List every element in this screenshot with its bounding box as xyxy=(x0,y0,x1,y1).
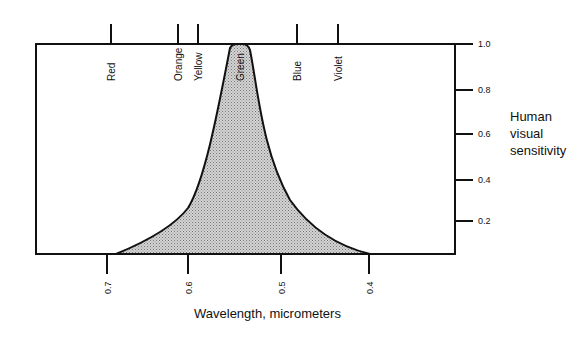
y-axis-title: visual xyxy=(510,126,543,141)
x-tick-label: 0.4 xyxy=(365,281,375,294)
y-tick-label: 1.0 xyxy=(478,39,491,49)
y-tick-label: 0.6 xyxy=(478,129,491,139)
color-label-orange: Orange xyxy=(173,47,184,81)
y-tick-label: 0.2 xyxy=(478,216,491,226)
y-tick-label: 0.8 xyxy=(478,85,491,95)
color-label-blue: Blue xyxy=(292,61,303,81)
color-band-ticks xyxy=(111,24,338,44)
y-tick-label: 0.4 xyxy=(478,175,491,185)
x-tick-label: 0.6 xyxy=(184,281,194,294)
color-label-violet: Violet xyxy=(333,56,344,81)
color-label-red: Red xyxy=(106,63,117,81)
y-axis-title: sensitivity xyxy=(510,143,567,158)
x-tick-label: 0.7 xyxy=(103,281,113,294)
color-label-yellow: Yellow xyxy=(193,52,204,81)
x-tick-label: 0.5 xyxy=(277,281,287,294)
color-label-green: Green xyxy=(235,53,246,81)
y-axis xyxy=(455,90,473,221)
x-axis xyxy=(107,254,369,274)
x-axis-title: Wavelength, micrometers xyxy=(194,306,341,321)
y-axis-title: Human xyxy=(510,109,552,124)
chart: 1.0 0.8 0.6 0.4 0.2 Human visual sensiti… xyxy=(0,0,585,337)
